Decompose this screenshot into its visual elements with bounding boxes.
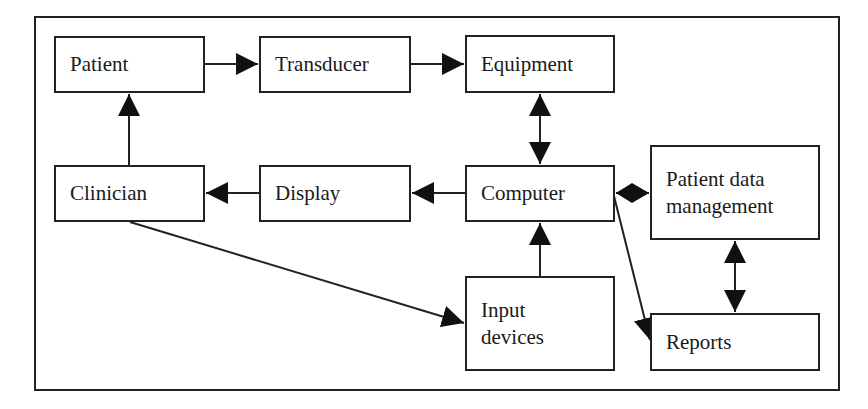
node-label: Clinician <box>70 180 203 207</box>
node-label: Reports <box>666 329 818 356</box>
node-label-line-1: Input <box>481 297 613 324</box>
node-label-line-1: Patient data <box>666 166 818 193</box>
node-label-line-2: devices <box>481 324 613 351</box>
node-label: Equipment <box>481 51 613 78</box>
node-display: Display <box>259 165 411 222</box>
diamond-connector-icon <box>616 183 649 203</box>
node-label-line-2: management <box>666 193 818 220</box>
node-transducer: Transducer <box>259 36 411 93</box>
medical-system-diagram: Patient Transducer Equipment Clinician D… <box>0 0 868 409</box>
node-label: Transducer <box>275 51 409 78</box>
node-label: Computer <box>481 180 613 207</box>
node-label: Display <box>275 180 409 207</box>
edge-clinician-input <box>130 222 464 323</box>
node-reports: Reports <box>650 313 820 371</box>
node-equipment: Equipment <box>465 35 615 93</box>
node-patient-data-management: Patient data management <box>650 145 820 240</box>
edge-computer-reports <box>614 196 650 340</box>
node-computer: Computer <box>465 165 615 222</box>
node-input-devices: Input devices <box>465 276 615 371</box>
node-clinician: Clinician <box>54 165 205 222</box>
node-label: Patient <box>70 51 203 78</box>
node-patient: Patient <box>54 36 205 93</box>
